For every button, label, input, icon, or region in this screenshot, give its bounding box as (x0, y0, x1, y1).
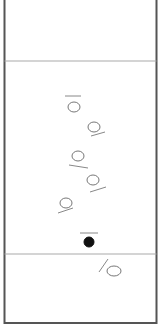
sheet-frame (5, 0, 157, 323)
open-circle-icon (68, 102, 80, 112)
open-circle-icon (107, 266, 121, 276)
pieces (58, 96, 121, 276)
open-circle-icon (72, 151, 84, 161)
sheet-border (5, 0, 157, 323)
open-circle-icon (88, 122, 100, 132)
divider-lines (5, 61, 157, 254)
play-diagram (0, 0, 159, 331)
direction-line (69, 165, 88, 168)
open-piece (88, 122, 105, 136)
open-circle-icon (87, 175, 99, 185)
direction-line (58, 208, 73, 213)
filled-piece (80, 233, 98, 247)
open-piece (87, 175, 106, 192)
direction-line (90, 187, 106, 192)
direction-line (91, 132, 105, 136)
open-piece (69, 151, 88, 168)
open-piece (65, 96, 81, 112)
filled-circle-icon (84, 237, 94, 247)
open-circle-icon (60, 198, 72, 208)
open-piece (58, 198, 73, 213)
open-piece (99, 259, 121, 276)
